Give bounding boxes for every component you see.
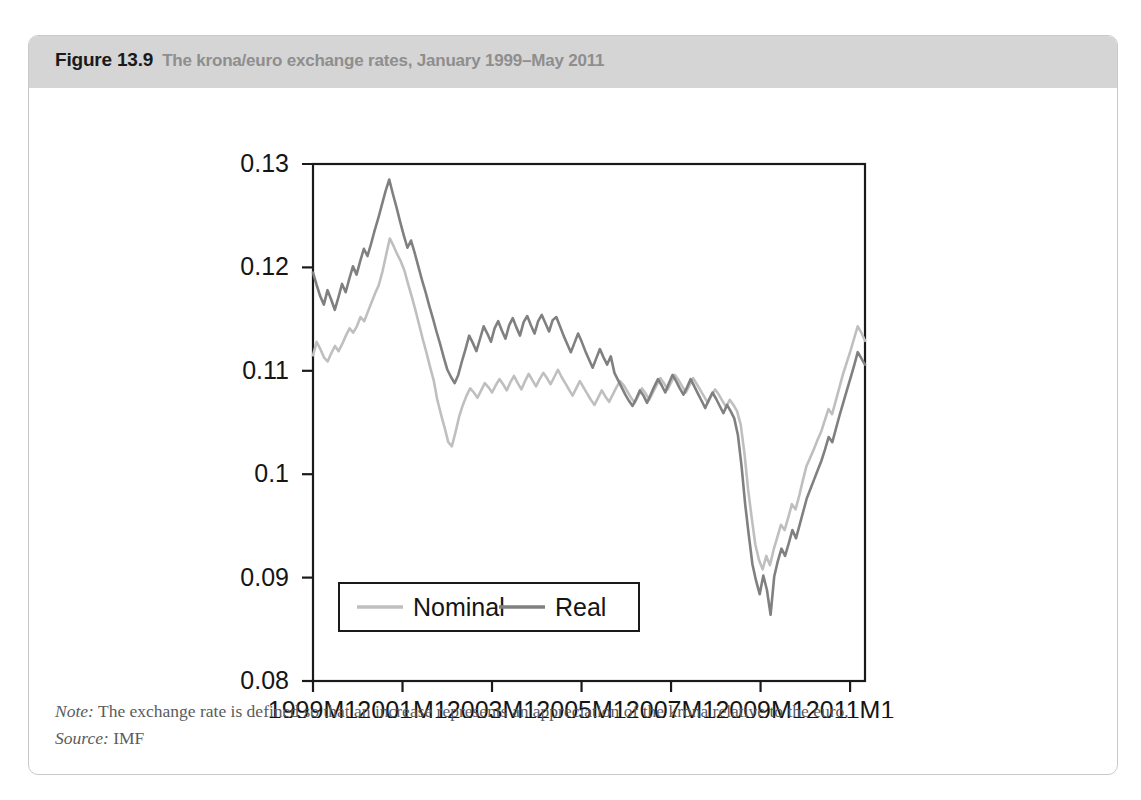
y-tick-label: 0.11 bbox=[242, 356, 289, 384]
y-axis-tick-labels: 0.080.090.10.110.120.13 bbox=[240, 149, 289, 694]
y-tick-label: 0.13 bbox=[240, 149, 289, 177]
y-axis-tick-marks bbox=[302, 164, 313, 681]
y-tick-label: 0.1 bbox=[254, 459, 289, 487]
legend-label-real: Real bbox=[555, 593, 606, 621]
source-text: IMF bbox=[109, 728, 145, 748]
note-text: The exchange rate is defined so that an … bbox=[94, 701, 849, 721]
note-label: Note: bbox=[55, 701, 94, 721]
figure-container: Figure 13.9The krona/euro exchange rates… bbox=[28, 35, 1118, 775]
figure-footer: Note: The exchange rate is defined so th… bbox=[55, 698, 1085, 752]
x-axis-tick-marks bbox=[313, 681, 850, 692]
figure-caption: The krona/euro exchange rates, January 1… bbox=[162, 51, 604, 70]
figure-number: Figure 13.9 bbox=[55, 49, 153, 70]
note-line: Note: The exchange rate is defined so th… bbox=[55, 698, 1085, 725]
data-series-group bbox=[313, 180, 865, 615]
series-line-nominal bbox=[313, 238, 865, 569]
source-label: Source: bbox=[55, 728, 109, 748]
y-tick-label: 0.09 bbox=[240, 563, 289, 591]
source-line: Source: IMF bbox=[55, 725, 1085, 752]
chart-legend: NominalReal bbox=[339, 583, 639, 631]
y-tick-label: 0.12 bbox=[240, 252, 289, 280]
legend-label-nominal: Nominal bbox=[413, 593, 505, 621]
chart-plot-region: 0.080.090.10.110.120.13 1999M12001M12003… bbox=[29, 88, 1117, 718]
line-chart-svg: 0.080.090.10.110.120.13 1999M12001M12003… bbox=[29, 88, 1118, 718]
y-tick-label: 0.08 bbox=[240, 666, 289, 694]
figure-header-band: Figure 13.9The krona/euro exchange rates… bbox=[29, 36, 1117, 88]
figure-title: Figure 13.9The krona/euro exchange rates… bbox=[55, 49, 604, 71]
